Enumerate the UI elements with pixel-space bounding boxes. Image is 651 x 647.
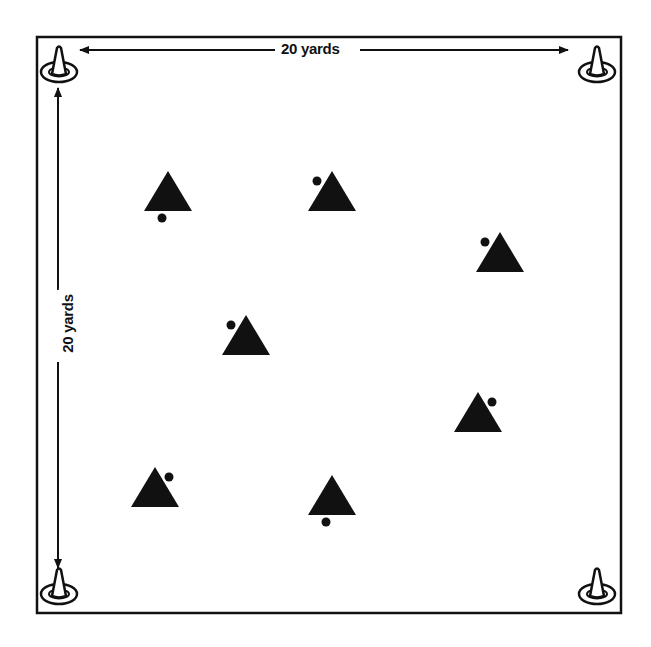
player-with-ball: [222, 315, 270, 355]
cone-icon: [41, 569, 77, 605]
player-with-ball: [308, 171, 356, 211]
player-triangle-icon: [454, 392, 502, 432]
field-boundary: [37, 37, 621, 613]
left-dimension-label: 20 yards: [59, 288, 76, 358]
drill-diagram: 20 yards 20 yards: [0, 0, 651, 647]
player-with-ball: [308, 475, 356, 527]
player-triangle-icon: [308, 475, 356, 515]
ball-icon: [322, 518, 331, 527]
top-dimension-label: 20 yards: [275, 40, 345, 57]
player-with-ball: [144, 171, 192, 223]
ball-icon: [481, 238, 490, 247]
field-diagram-canvas: [0, 0, 651, 647]
player-triangle-icon: [144, 171, 192, 211]
players-group: [131, 171, 524, 527]
player-with-ball: [476, 232, 524, 272]
ball-icon: [158, 214, 167, 223]
player-with-ball: [131, 467, 179, 507]
cone-icon: [579, 569, 615, 605]
ball-icon: [165, 473, 174, 482]
player-triangle-icon: [131, 467, 179, 507]
cone-icon: [41, 47, 77, 83]
ball-icon: [313, 177, 322, 186]
ball-icon: [227, 321, 236, 330]
cone-icon: [579, 47, 615, 83]
ball-icon: [488, 398, 497, 407]
player-with-ball: [454, 392, 502, 432]
